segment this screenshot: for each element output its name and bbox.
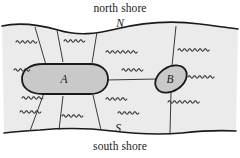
island-b-label: B xyxy=(166,73,173,85)
south-shore-label: south shore xyxy=(0,140,240,152)
north-point-label: N xyxy=(110,17,130,29)
island-a-label: A xyxy=(59,73,68,85)
south-point-label: S xyxy=(108,122,128,134)
north-shore-label: north shore xyxy=(0,2,240,14)
river-bridges-figure: A B north shore N S south shore xyxy=(0,0,240,158)
